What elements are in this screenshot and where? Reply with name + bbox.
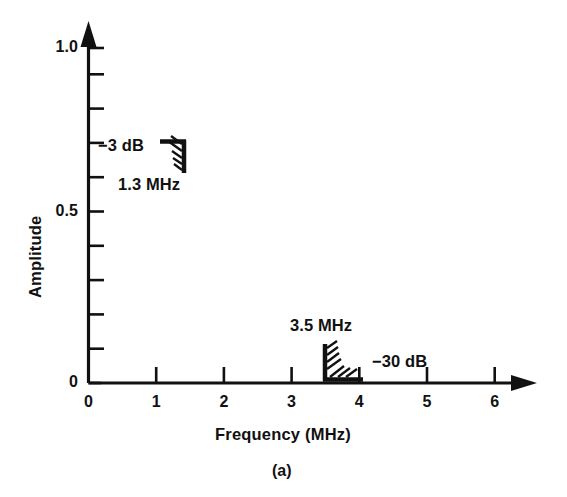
x-tick-label-1: 1 — [136, 393, 176, 411]
x-tick-label-3: 3 — [272, 393, 312, 411]
x-tick-label-6: 6 — [475, 393, 515, 411]
x-tick-label-2: 2 — [204, 393, 244, 411]
x-axis-arrowhead-icon — [511, 375, 537, 391]
x-axis-title: Frequency (MHz) — [215, 425, 351, 444]
y-tick-label-1-0: 1.0 — [30, 38, 78, 56]
x-axis-ticks — [89, 367, 495, 383]
x-tick-label-4: 4 — [339, 393, 379, 411]
y-axis-title: Amplitude — [26, 216, 45, 298]
x-tick-label-0: 0 — [69, 393, 109, 411]
figure-container: 1.0 0.5 0 0 1 2 3 4 5 6 −3 dB 1.3 MHz 3.… — [0, 0, 567, 497]
figure-caption: (a) — [272, 462, 292, 480]
annotation-marker-minus-30db — [323, 341, 363, 381]
y-axis-arrowhead-icon — [81, 21, 97, 47]
annotation-label-1-3-mhz: 1.3 MHz — [118, 175, 180, 194]
y-axis-ticks — [89, 48, 105, 383]
annotation-label-minus-3db: −3 dB — [98, 136, 144, 155]
annotation-marker-minus-3db — [160, 136, 186, 173]
marker-30db-hatching — [327, 341, 357, 377]
y-tick-label-0: 0 — [30, 373, 78, 391]
annotation-label-minus-30db: −30 dB — [372, 352, 427, 371]
x-tick-label-5: 5 — [407, 393, 447, 411]
chart-canvas — [0, 0, 567, 497]
annotation-label-3-5-mhz: 3.5 MHz — [290, 316, 352, 335]
